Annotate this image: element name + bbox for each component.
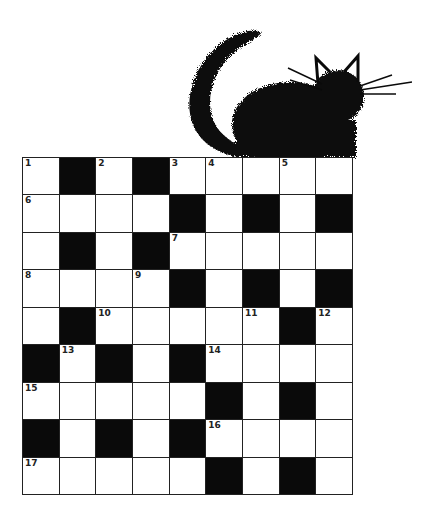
answer-cell[interactable] [96, 270, 132, 306]
block-cell [170, 195, 206, 231]
block-cell [23, 420, 59, 456]
clue-number: 8 [25, 271, 31, 280]
block-cell [96, 420, 132, 456]
crossword-grid: 1234567891011121314151617 [22, 157, 353, 495]
answer-cell[interactable]: 14 [206, 345, 242, 381]
block-cell [243, 270, 279, 306]
clue-number: 3 [172, 159, 178, 168]
block-cell [133, 233, 169, 269]
block-cell [96, 345, 132, 381]
block-cell [60, 308, 96, 344]
clue-number: 14 [208, 346, 221, 355]
answer-cell[interactable] [280, 345, 316, 381]
clue-number: 12 [318, 309, 331, 318]
answer-cell[interactable] [170, 308, 206, 344]
answer-cell[interactable]: 6 [23, 195, 59, 231]
answer-cell[interactable] [243, 458, 279, 494]
answer-cell[interactable] [133, 420, 169, 456]
answer-cell[interactable] [316, 345, 352, 381]
clue-number: 11 [245, 309, 258, 318]
clue-number: 13 [62, 346, 75, 355]
clue-number: 5 [282, 159, 288, 168]
answer-cell[interactable] [206, 233, 242, 269]
answer-cell[interactable] [243, 345, 279, 381]
answer-cell[interactable] [133, 458, 169, 494]
block-cell [60, 233, 96, 269]
answer-cell[interactable] [133, 195, 169, 231]
clue-number: 4 [208, 159, 214, 168]
answer-cell[interactable] [23, 233, 59, 269]
block-cell [206, 383, 242, 419]
answer-cell[interactable] [170, 383, 206, 419]
answer-cell[interactable]: 9 [133, 270, 169, 306]
answer-cell[interactable]: 10 [96, 308, 132, 344]
black-cat-icon [0, 0, 437, 170]
block-cell [243, 195, 279, 231]
answer-cell[interactable] [206, 270, 242, 306]
block-cell [316, 270, 352, 306]
answer-cell[interactable]: 7 [170, 233, 206, 269]
answer-cell[interactable] [316, 233, 352, 269]
answer-cell[interactable] [280, 270, 316, 306]
answer-cell[interactable] [96, 383, 132, 419]
answer-cell[interactable]: 5 [280, 158, 316, 194]
answer-cell[interactable] [96, 458, 132, 494]
answer-cell[interactable] [280, 195, 316, 231]
answer-cell[interactable] [280, 420, 316, 456]
answer-cell[interactable]: 11 [243, 308, 279, 344]
answer-cell[interactable] [60, 195, 96, 231]
answer-cell[interactable] [133, 345, 169, 381]
answer-cell[interactable] [60, 420, 96, 456]
clue-number: 9 [135, 271, 141, 280]
block-cell [133, 158, 169, 194]
answer-cell[interactable] [243, 420, 279, 456]
block-cell [280, 308, 316, 344]
answer-cell[interactable] [243, 233, 279, 269]
answer-cell[interactable] [206, 308, 242, 344]
answer-cell[interactable] [243, 158, 279, 194]
answer-cell[interactable]: 12 [316, 308, 352, 344]
answer-cell[interactable]: 16 [206, 420, 242, 456]
answer-cell[interactable]: 4 [206, 158, 242, 194]
answer-cell[interactable] [316, 458, 352, 494]
answer-cell[interactable] [96, 233, 132, 269]
block-cell [170, 420, 206, 456]
block-cell [60, 158, 96, 194]
block-cell [23, 345, 59, 381]
answer-cell[interactable] [60, 383, 96, 419]
answer-cell[interactable] [170, 458, 206, 494]
clue-number: 15 [25, 384, 38, 393]
clue-number: 17 [25, 459, 38, 468]
clue-number: 1 [25, 159, 31, 168]
answer-cell[interactable] [280, 233, 316, 269]
answer-cell[interactable] [60, 270, 96, 306]
answer-cell[interactable] [316, 383, 352, 419]
answer-cell[interactable]: 8 [23, 270, 59, 306]
block-cell [206, 458, 242, 494]
clue-number: 7 [172, 234, 178, 243]
block-cell [170, 345, 206, 381]
answer-cell[interactable]: 3 [170, 158, 206, 194]
answer-cell[interactable]: 15 [23, 383, 59, 419]
clue-number: 10 [98, 309, 111, 318]
clue-number: 6 [25, 196, 31, 205]
answer-cell[interactable] [243, 383, 279, 419]
block-cell [280, 383, 316, 419]
block-cell [170, 270, 206, 306]
block-cell [280, 458, 316, 494]
answer-cell[interactable] [316, 420, 352, 456]
answer-cell[interactable]: 17 [23, 458, 59, 494]
clue-number: 16 [208, 421, 221, 430]
answer-cell[interactable]: 1 [23, 158, 59, 194]
answer-cell[interactable] [23, 308, 59, 344]
answer-cell[interactable] [133, 383, 169, 419]
answer-cell[interactable] [133, 308, 169, 344]
clue-number: 2 [98, 159, 104, 168]
answer-cell[interactable] [206, 195, 242, 231]
answer-cell[interactable] [60, 458, 96, 494]
answer-cell[interactable] [316, 158, 352, 194]
answer-cell[interactable]: 2 [96, 158, 132, 194]
answer-cell[interactable]: 13 [60, 345, 96, 381]
answer-cell[interactable] [96, 195, 132, 231]
block-cell [316, 195, 352, 231]
